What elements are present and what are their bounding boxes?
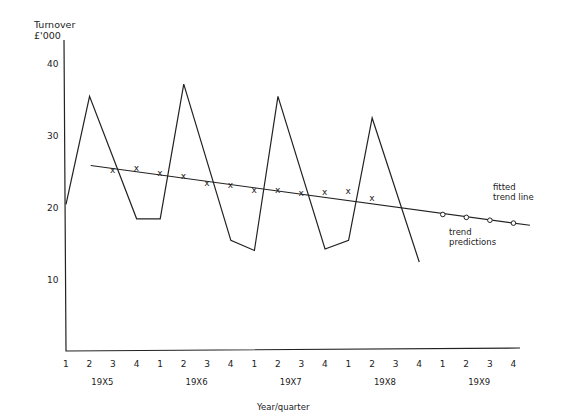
y-axis-title-line2: £'000 [34, 30, 61, 41]
moving-average-marker: x [299, 188, 305, 198]
y-tick-label: 10 [47, 275, 59, 285]
x-tick-label: 4 [510, 359, 516, 369]
trend-predictions-label-1: trend [449, 227, 472, 237]
y-tick-label: 20 [47, 203, 59, 213]
x-tick-label: 1 [157, 359, 163, 369]
year-label: 19X5 [91, 377, 113, 387]
x-tick-label: 1 [346, 359, 352, 369]
y-tick-label: 40 [47, 59, 59, 69]
turnover-line [66, 84, 419, 262]
x-tick-label: 2 [463, 359, 469, 369]
x-tick-label: 4 [322, 359, 328, 369]
moving-average-marker: x [204, 178, 210, 188]
x-tick-label: 4 [228, 359, 234, 369]
year-labels: 19X519X619X719X819X9 [91, 377, 490, 387]
y-axis-title-line1: Turnover [33, 19, 75, 30]
trend-prediction-marker [511, 221, 516, 226]
moving-average-marker: x [181, 171, 187, 181]
x-tick-label: 2 [87, 359, 93, 369]
moving-average-marker: x [275, 185, 281, 195]
fitted-trend-line-label-1: fitted [493, 182, 516, 192]
turnover-trend-chart: Turnover £'000 10203040 1234123412341234… [0, 0, 562, 420]
x-tick-label: 3 [299, 359, 305, 369]
x-tick-label: 1 [440, 359, 446, 369]
year-label: 19X6 [186, 377, 208, 387]
trend-prediction-marker [488, 218, 493, 223]
x-tick-label: 4 [416, 359, 422, 369]
fitted-trend-line-label-2: trend line [493, 192, 534, 202]
x-tick-label: 3 [110, 359, 116, 369]
x-tick-label: 2 [275, 359, 281, 369]
moving-average-marker: x [322, 187, 328, 197]
year-label: 19X8 [374, 377, 396, 387]
y-tick-label: 30 [47, 131, 59, 141]
moving-average-marker: x [346, 186, 352, 196]
x-tick-label: 2 [181, 359, 187, 369]
x-tick-label: 2 [369, 359, 375, 369]
trend-prediction-marker [441, 212, 446, 217]
moving-average-marker: x [110, 165, 116, 175]
year-label: 19X9 [468, 377, 490, 387]
x-tick-label: 3 [487, 359, 493, 369]
x-tick-label: 3 [393, 359, 399, 369]
moving-average-marker: x [157, 168, 163, 178]
trend-prediction-marker [464, 215, 469, 220]
axes [64, 40, 520, 351]
trend-predictions-label-2: predictions [449, 237, 497, 247]
year-label: 19X7 [280, 377, 302, 387]
x-tick-label: 1 [63, 359, 69, 369]
x-tick-labels: 12341234123412341234 [63, 359, 516, 369]
moving-average-marker: x [369, 193, 375, 203]
x-tick-label: 3 [204, 359, 210, 369]
y-tick-labels: 10203040 [47, 59, 59, 285]
moving-average-marker: x [251, 185, 257, 195]
x-tick-label: 4 [134, 359, 140, 369]
x-axis-title: Year/quarter [256, 402, 310, 412]
x-tick-label: 1 [251, 359, 257, 369]
